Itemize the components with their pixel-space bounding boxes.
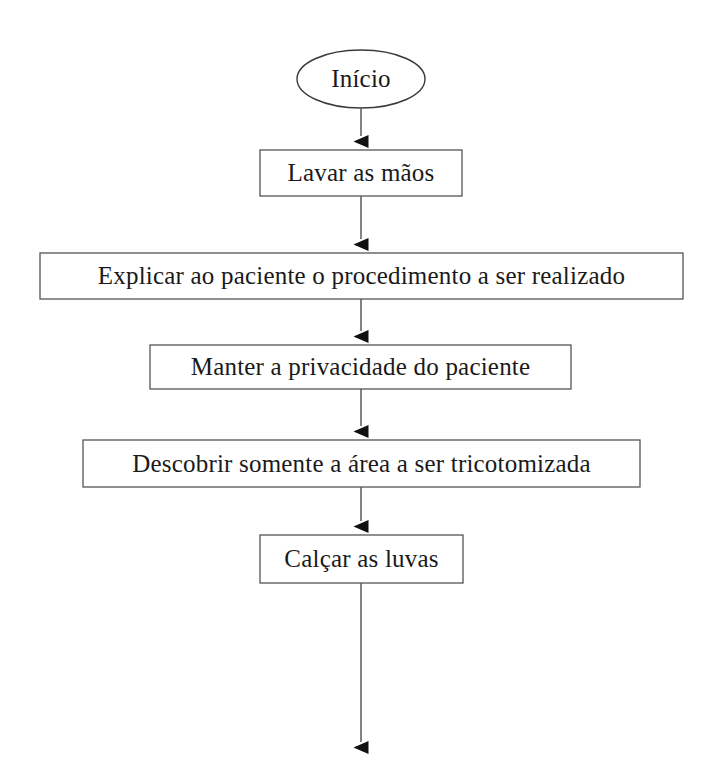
node-step1-shape[interactable]	[260, 150, 462, 196]
node-step5-shape[interactable]	[260, 535, 463, 583]
node-step3-shape[interactable]	[150, 345, 571, 389]
node-step4-shape[interactable]	[83, 440, 640, 487]
flowchart-canvas	[0, 0, 723, 778]
flowchart-page: Início Lavar as mãos Explicar ao pacient…	[0, 0, 723, 778]
node-step2-shape[interactable]	[40, 253, 683, 299]
node-start-shape[interactable]	[297, 50, 425, 108]
